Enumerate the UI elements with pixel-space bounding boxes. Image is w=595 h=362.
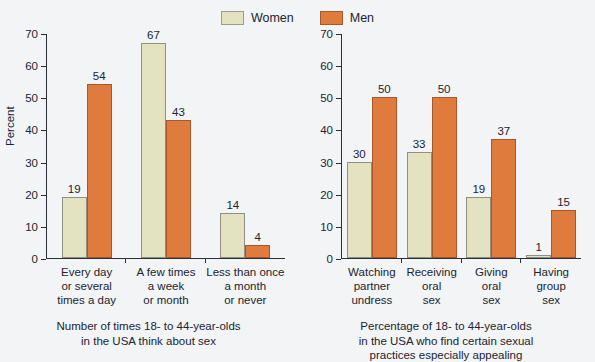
y-axis-title-left: Percent [4,106,16,146]
y-tick-label: 40 [320,124,333,136]
chart-panel-right: 010203040506070 305033501937115 Watching… [297,28,595,362]
bar-value-label: 1 [535,241,541,253]
bar-men: 37 [491,139,516,258]
bar-men: 15 [551,210,576,258]
category-line: oral [402,279,462,293]
bar-men: 54 [87,84,112,258]
bar-group: 3350 [402,34,462,258]
bar-women: 33 [407,152,432,258]
y-tick-mark [41,163,46,164]
y-tick-mark [336,195,341,196]
category-line: or several [47,279,126,293]
y-tick-label: 60 [320,60,333,72]
category-line: oral [462,279,522,293]
bar-group: 1954 [47,34,126,258]
x-tick-mark [401,258,402,263]
y-tick-mark [41,195,46,196]
x-axis-line-left [46,258,285,259]
x-axis-labels-left: Every dayor severaltimes a dayA few time… [47,265,285,307]
y-tick-mark [41,98,46,99]
y-tick-mark [336,227,341,228]
category-line: or never [206,293,285,307]
chart-panel-left: Percent 010203040506070 19546743144 Ever… [0,28,297,362]
y-tick-label: 40 [25,124,38,136]
bar-women: 67 [141,43,166,258]
x-axis-category-label: Watchingpartnerundress [342,265,402,307]
plot-area-right: 010203040506070 305033501937115 [341,34,581,259]
y-tick-mark [336,130,341,131]
category-line: Less than once [206,265,285,279]
bar-group: 3050 [342,34,402,258]
y-tick-label: 0 [32,253,38,265]
category-line: Every day [47,265,126,279]
x-axis-category-label: Receivingoralsex [402,265,462,307]
caption-left-line-2: in the USA think about sex [10,334,287,349]
bar-value-label: 67 [147,29,160,41]
y-tick-mark [41,34,46,35]
y-tick-label: 50 [25,92,38,104]
y-tick-mark [336,259,341,260]
category-line: undress [342,293,402,307]
women-swatch-icon [221,11,244,25]
x-axis-category-label: Less than oncea monthor never [206,265,285,307]
bar-value-label: 14 [226,199,239,211]
caption-right-line-1: Percentage of 18- to 44-year-olds [307,319,585,334]
y-tick-label: 70 [320,28,333,40]
category-line: Having [521,265,581,279]
y-tick-mark [336,98,341,99]
bar-value-label: 4 [255,231,261,243]
bar-value-label: 19 [472,183,485,195]
category-line: Watching [342,265,402,279]
x-axis-category-label: A few timesa weekor month [126,265,205,307]
men-swatch-icon [320,11,343,25]
y-tick-mark [41,130,46,131]
category-line: Receiving [402,265,462,279]
caption-left-line-1: Number of times 18- to 44-year-olds [10,319,287,334]
category-line: sex [462,293,522,307]
y-tick-mark [336,66,341,67]
legend-item-women: Women [221,11,294,25]
y-tick-label: 70 [25,28,38,40]
category-line: partner [342,279,402,293]
bar-men: 50 [372,97,397,258]
x-axis-category-label: Havinggroupsex [521,265,581,307]
plot-area-left: 010203040506070 19546743144 [46,34,285,259]
y-tick-label: 30 [25,157,38,169]
category-line: sex [402,293,462,307]
category-line: a week [126,279,205,293]
bar-women: 19 [466,197,491,258]
bar-men: 4 [245,245,270,258]
y-tick-label: 10 [25,221,38,233]
category-line: or month [126,293,205,307]
bar-women: 1 [526,255,551,258]
y-tick-label: 0 [327,253,333,265]
chart-legend: Women Men [0,9,595,27]
y-tick-label: 60 [25,60,38,72]
legend-item-men: Men [320,11,374,25]
caption-right-line-2: in the USA who find certain sexual [307,334,585,349]
y-tick-label: 30 [320,157,333,169]
bar-value-label: 15 [557,196,570,208]
bar-group: 1937 [462,34,522,258]
x-tick-mark [205,258,206,263]
bar-value-label: 33 [413,138,426,150]
caption-right-line-3: practices especially appealing [307,348,585,362]
y-tick-mark [41,259,46,260]
bar-value-label: 50 [438,83,451,95]
x-tick-mark [520,258,521,263]
bar-women: 30 [347,162,372,258]
bar-group: 6743 [126,34,205,258]
bar-group: 144 [206,34,285,258]
bar-value-label: 30 [353,148,366,160]
bar-groups-left: 19546743144 [47,34,285,258]
y-tick-mark [41,227,46,228]
x-axis-category-label: Every dayor severaltimes a day [47,265,126,307]
bar-group: 115 [521,34,581,258]
bar-value-label: 19 [68,183,81,195]
bar-value-label: 37 [497,125,510,137]
x-axis-labels-right: WatchingpartnerundressReceivingoralsexGi… [342,265,581,307]
y-tick-mark [41,66,46,67]
legend-label-men: Men [350,11,374,25]
caption-left: Number of times 18- to 44-year-olds in t… [10,319,287,348]
category-line: A few times [126,265,205,279]
